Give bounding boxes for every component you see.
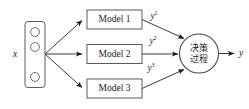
fanin-edges-group [142,20,184,89]
input-vector-group: x [12,22,45,88]
edge-input-to-model-3 [45,54,82,88]
model-2-output-label: y2 [148,35,156,46]
model-1-output-label: y1 [149,10,157,21]
decision-process-group[interactable]: 决策 过程 [180,34,219,73]
model-2-label: Model 2 [99,49,131,59]
model-3-group[interactable]: Model 3 [87,79,142,98]
intermediate-output-labels-group: y1 y2 y3 [146,10,157,73]
model-2-group[interactable]: Model 2 [87,45,142,64]
final-output-group: y [219,48,244,58]
final-output-label: y [238,48,244,58]
model-1-label: Model 1 [99,14,131,24]
edge-input-to-model-1 [45,21,82,55]
ensemble-decision-diagram: x Model 1 Model 2 Model 3 [0,0,249,109]
decision-process-line-1: 决策 [190,42,208,53]
diagram-canvas: x Model 1 Model 2 Model 3 [0,0,249,109]
model-3-label: Model 3 [99,83,131,93]
fanout-edges-group [45,21,82,88]
model-3-output-label: y3 [146,62,154,73]
input-label: x [12,49,18,59]
edge-model-1-to-decision [142,20,184,39]
input-unit-2-icon [31,43,40,52]
decision-process-line-2: 过程 [190,53,208,64]
input-unit-3-icon [31,73,40,82]
model-1-group[interactable]: Model 1 [87,10,142,29]
input-unit-1-icon [31,28,40,37]
